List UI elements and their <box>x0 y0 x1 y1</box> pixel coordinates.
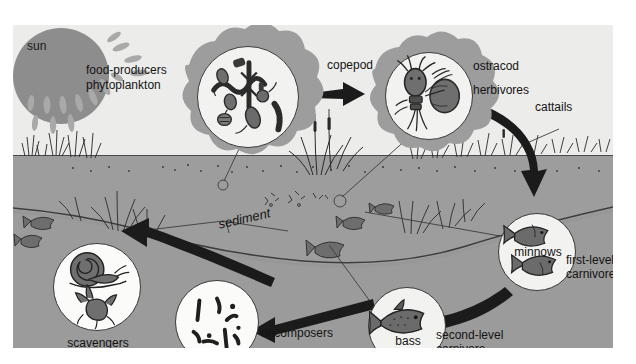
bass-magnifier-circle[interactable]: bass <box>368 287 446 348</box>
snail-crayfish-icon <box>54 244 140 330</box>
decomposers-label: decomposers <box>261 326 333 340</box>
copepod-ostracod-icon <box>386 53 472 139</box>
decomposers-bacteria-icon <box>176 281 258 348</box>
decomposers-magnifier-circle[interactable] <box>175 280 259 348</box>
first-level-label: first-level <box>566 253 613 267</box>
phytoplankton-contents-icon <box>198 47 298 147</box>
food-producers-label: food-producers <box>86 63 167 77</box>
phytoplankton-label: phytoplankton <box>86 78 161 92</box>
second-level-label: second-level <box>436 328 503 342</box>
herbivores-magnifier-circle[interactable] <box>385 52 473 140</box>
scavengers-label: scavengers <box>48 336 148 348</box>
scavengers-magnifier-circle[interactable]: scavengers <box>53 243 141 331</box>
copepod-label: copepod <box>327 58 373 72</box>
ostracod-label: ostracod <box>473 59 519 73</box>
cattails-label: cattails <box>535 100 572 114</box>
minnows-magnifier-circle[interactable]: minnows <box>498 213 576 291</box>
illustration-frame: sun <box>13 25 613 348</box>
herbivores-label: herbivores <box>473 83 529 97</box>
second-level-carnivore-label: carnivore <box>436 342 485 348</box>
first-level-carnivore-label: carnivore <box>566 267 613 281</box>
diagram-canvas: sun <box>0 0 636 364</box>
phytoplankton-magnifier-circle[interactable] <box>197 46 299 148</box>
